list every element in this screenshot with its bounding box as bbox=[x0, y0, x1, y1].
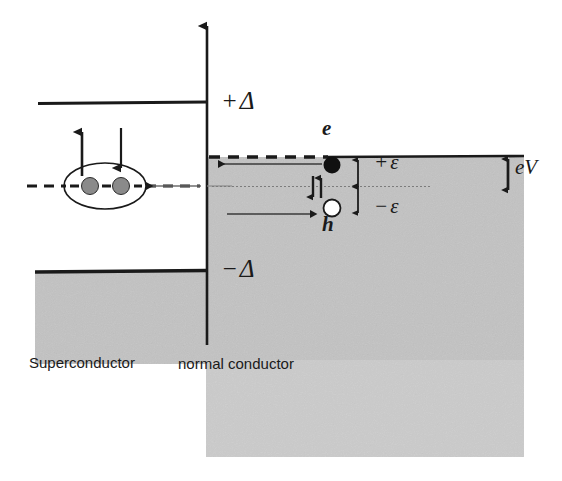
label-epsilon-positive: +ε bbox=[374, 152, 400, 173]
label-gap-edge-lower: −Δ bbox=[221, 256, 257, 281]
electron-particle bbox=[324, 157, 341, 174]
gap-edge-upper-line bbox=[38, 102, 207, 104]
label-gap-edge-upper: +Δ bbox=[221, 88, 257, 113]
label-electron: e bbox=[322, 118, 331, 139]
label-superconductor-region: Superconductor bbox=[29, 355, 135, 370]
gap-edge-lower-line bbox=[35, 271, 207, 273]
region-superconductor-condensate bbox=[35, 272, 207, 364]
label-normal-conductor-region: normal conductor bbox=[178, 356, 294, 371]
label-epsilon-negative: −ε bbox=[374, 196, 400, 217]
region-normal-conductor-fermi-sea bbox=[206, 157, 524, 457]
label-bias-voltage: eV bbox=[515, 157, 537, 178]
fermi-level-normal-solid bbox=[326, 156, 524, 157]
andreev-reflection-diagram: +Δ −Δ +ε −ε e h eV Superconductor normal… bbox=[0, 0, 562, 481]
label-hole: h bbox=[322, 214, 334, 235]
diagram-canvas bbox=[0, 0, 562, 481]
cooper-pair-electron-1 bbox=[82, 178, 99, 195]
cooper-pair-electron-2 bbox=[113, 178, 130, 195]
